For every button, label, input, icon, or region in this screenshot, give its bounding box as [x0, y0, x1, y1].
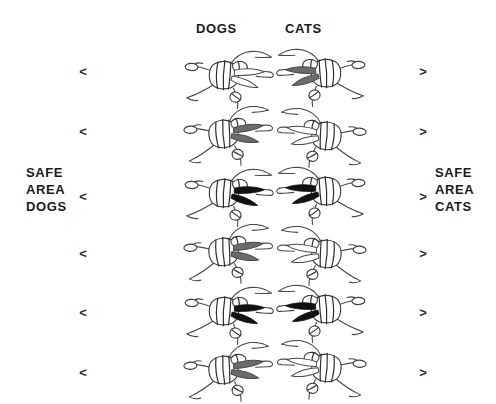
safe-area-label-dogs: SAFE AREA DOGS: [26, 164, 67, 215]
safe-area-dogs-line1: SAFE: [26, 164, 67, 181]
column-header-dogs: DOGS: [196, 21, 237, 36]
figure-cats-6: [272, 340, 368, 402]
chevron-left-3[interactable]: <: [78, 190, 88, 203]
chevron-left-1[interactable]: <: [78, 65, 88, 78]
chevron-right-4[interactable]: >: [418, 247, 428, 260]
page-root: DOGS CATS SAFE AREA DOGS SAFE AREA CATS …: [0, 0, 496, 404]
chevron-right-3[interactable]: >: [418, 190, 428, 203]
chevron-right-2[interactable]: >: [418, 125, 428, 138]
figure-cats-2: [272, 108, 368, 170]
chevron-left-4[interactable]: <: [78, 247, 88, 260]
column-header-cats: CATS: [285, 21, 322, 36]
safe-area-label-cats: SAFE AREA CATS: [435, 164, 474, 215]
chevron-left-2[interactable]: <: [78, 125, 88, 138]
safe-area-cats-line3: CATS: [435, 198, 474, 215]
chevron-right-1[interactable]: >: [418, 65, 428, 78]
figure-cats-5: [272, 282, 368, 344]
figure-dogs-1: [182, 48, 278, 110]
safe-area-dogs-line3: DOGS: [26, 198, 67, 215]
chevron-left-6[interactable]: <: [78, 366, 88, 379]
chevron-right-5[interactable]: >: [418, 306, 428, 319]
safe-area-cats-line1: SAFE: [435, 164, 474, 181]
safe-area-dogs-line2: AREA: [26, 181, 67, 198]
figure-cats-1: [272, 46, 368, 108]
chevron-right-6[interactable]: >: [418, 366, 428, 379]
figure-dogs-4: [182, 224, 278, 286]
figure-dogs-2: [182, 106, 278, 168]
figure-cats-4: [272, 226, 368, 288]
figure-cats-3: [272, 164, 368, 226]
figure-dogs-3: [182, 166, 278, 228]
figure-dogs-5: [182, 284, 278, 346]
chevron-left-5[interactable]: <: [78, 306, 88, 319]
safe-area-cats-line2: AREA: [435, 181, 474, 198]
figure-dogs-6: [182, 342, 278, 404]
